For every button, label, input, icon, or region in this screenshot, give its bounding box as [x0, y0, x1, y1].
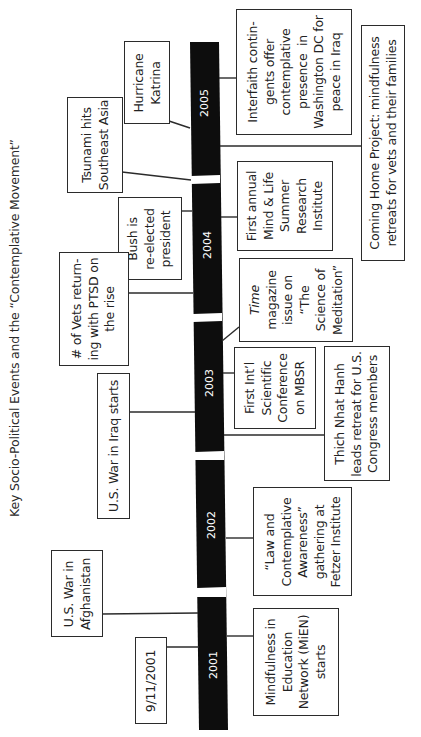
year-divider: [195, 451, 224, 460]
event-box-9-11: 9/11/2001: [135, 637, 167, 724]
event-box-mind-life: First annual Mind & Life Summer Research…: [237, 161, 333, 251]
event-box-interfaith: Interfaith contin- gents offer contempla…: [236, 9, 352, 135]
event-box-thich-nhat-hanh: Thich Nhat Hanh leads retreat for U.S. C…: [324, 346, 390, 481]
time-magazine-title: Time: [247, 285, 262, 315]
event-box-tsunami: Tsunami hits Southeast Asia: [67, 97, 123, 193]
event-box-iraq-war: U.S. War in Iraq starts: [97, 373, 130, 519]
event-box-coming-home: Coming Home Project: mindfulness retreat…: [361, 25, 405, 261]
year-divider: [193, 313, 222, 322]
event-box-vets-ptsd: # of Vets return- ing with PTSD on the r…: [59, 252, 129, 366]
event-box-law-contemplative: “Law and Contemplative Awareness” gather…: [253, 487, 352, 596]
event-box-afghanistan-war: U.S. War in Afghanistan: [51, 550, 103, 637]
year-divider: [197, 587, 226, 597]
event-box-mbsr-conference: First Int’l Scientific Conference on MBS…: [234, 347, 316, 429]
event-box-time-magazine: Time magazine issue on “The Science of M…: [239, 258, 353, 342]
event-box-mien: Mindfulness in Education Network (MiEN) …: [253, 608, 339, 716]
year-divider: [191, 175, 220, 184]
event-box-hurricane-katrina: Hurricane Katrina: [124, 41, 170, 124]
